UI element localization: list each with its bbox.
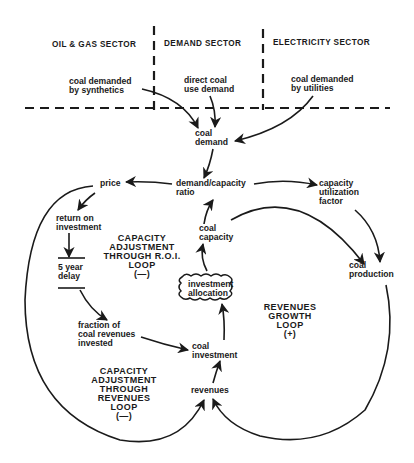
svg-text:capacity: capacity [199,232,234,242]
svg-text:by synthetics: by synthetics [69,85,124,95]
edge-utilities-to-coal-demand [235,96,313,141]
svg-text:investment: investment [56,222,102,232]
edge-allocation-to-capacity [202,244,207,271]
edge-capacity-to-production [231,207,364,264]
node-capacity-utilization-factor: capacity utilization factor [319,178,359,206]
node-coal-demanded-utilities: coal demanded by utilities [291,74,354,93]
node-coal-investment: coal investment [192,341,238,360]
node-direct-coal-use-demand: direct coal use demand [184,75,234,94]
svg-text:invested: invested [78,338,113,348]
svg-text:(+): (+) [284,329,296,339]
node-five-year-delay: 5 year delay [58,258,85,288]
edge-delay-to-fraction [80,290,107,320]
node-fraction-invested: fraction of coal revenues invested [78,320,136,348]
svg-text:revenues: revenues [191,385,229,395]
sector-oil-gas: OIL & GAS SECTOR [52,40,136,49]
node-demand-capacity-ratio: demand/capacity ratio [176,178,246,197]
edge-fraction-to-investment [141,337,188,350]
svg-text:use demand: use demand [184,84,234,94]
edge-ratio-to-utilization [254,181,317,185]
loop-label-revenues-growth: REVENUES GROWTH LOOP (+) [264,302,317,339]
svg-text:ratio: ratio [176,187,195,197]
svg-text:delay: delay [58,271,80,281]
coal-sector-causal-loop-diagram: OIL & GAS SECTOR DEMAND SECTOR ELECTRICI… [0,0,414,463]
svg-text:(—): (—) [134,269,150,279]
svg-text:production: production [349,269,394,279]
svg-text:price: price [100,178,121,188]
edge-direct-to-coal-demand [210,96,215,127]
node-coal-demand: coal demand [195,128,228,147]
svg-text:allocation: allocation [188,288,228,298]
edge-coal-demand-to-ratio [204,149,213,178]
edge-capacity-to-ratio [204,200,213,224]
node-price: price [100,178,121,188]
sector-electricity: ELECTRICITY SECTOR [273,38,370,47]
svg-text:by utilities: by utilities [291,83,334,93]
sector-demand: DEMAND SECTOR [164,39,241,48]
node-revenues: revenues [191,385,229,395]
edge-investment-to-allocation [222,304,224,340]
svg-text:investment: investment [192,350,238,360]
loop-label-revenues-adjustment: CAPACITY ADJUSTMENT THROUGH REVENUES LOO… [91,366,157,421]
node-coal-capacity: coal capacity [199,223,234,242]
node-investment-allocation: investment allocation [179,274,234,300]
loop-label-roi: CAPACITY ADJUSTMENT THROUGH R.O.I. LOOP … [103,233,180,279]
node-coal-production: coal production [349,260,394,279]
svg-text:factor: factor [319,196,344,206]
edge-ratio-to-price [126,182,172,184]
svg-text:demand: demand [195,137,228,147]
node-coal-demanded-synthetics: coal demanded by synthetics [69,76,132,95]
node-return-on-investment: return on investment [56,213,102,232]
edge-price-to-roi [78,193,95,210]
svg-text:(—): (—) [116,411,132,421]
edge-utilization-to-production [355,210,380,262]
edge-revenues-to-investment [213,361,220,383]
